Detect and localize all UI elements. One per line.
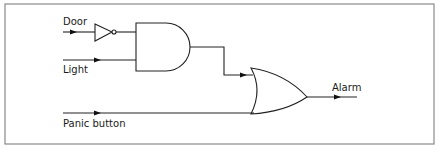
logic-circuit-diagram: Door Light Panic button Alarm [0, 0, 439, 149]
panic-button-arrow-icon [94, 111, 101, 116]
panic-button-label: Panic button [63, 118, 126, 129]
alarm-arrow-icon [334, 95, 341, 100]
and-to-or-wire [190, 47, 253, 75]
and-to-or-arrow-icon [240, 73, 247, 78]
alarm-label: Alarm [332, 82, 361, 93]
light-label: Light [63, 64, 88, 75]
light-arrow-icon [94, 58, 101, 63]
or-gate-icon [251, 68, 307, 114]
and-gate-icon [136, 23, 190, 71]
not-gate [95, 24, 116, 41]
door-arrow-icon [70, 30, 77, 35]
door-label: Door [63, 16, 88, 27]
not-gate-triangle-icon [95, 24, 112, 41]
not-gate-bubble-icon [112, 30, 116, 34]
